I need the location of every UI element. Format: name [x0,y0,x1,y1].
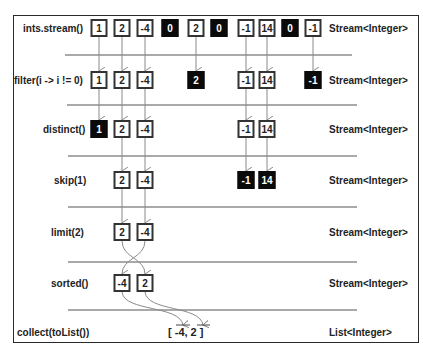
dropped-element-box: 14 [259,171,276,189]
operation-label-collect: collect(toList()) [17,327,89,338]
collected-list-result: [ -4, 2 ] [168,326,203,338]
operation-label-sorted: sorted() [51,278,88,289]
element-box: -4 [137,71,154,89]
element-box: 1 [91,19,108,37]
dropped-element-box: -1 [305,71,322,89]
dropped-element-box: 2 [188,71,205,89]
stage-separators [65,55,357,310]
operation-label-limit: limit(2) [51,227,84,238]
element-box: 2 [114,223,131,241]
operation-label-filter: filter(i -> i != 0) [14,75,83,86]
element-box: -1 [238,71,255,89]
type-label-stream: Stream<Integer> [329,23,408,34]
operation-label-distinct: distinct() [43,124,85,135]
element-box: 2 [137,274,154,292]
type-label-collect: List<Integer> [329,327,392,338]
type-label-distinct: Stream<Integer> [329,124,408,135]
dropped-element-box: 1 [91,120,108,138]
operation-label-stream: ints.stream() [23,23,83,34]
element-box: -1 [305,19,322,37]
dropped-element-box: 0 [211,19,228,37]
element-box: -1 [238,120,255,138]
dropped-element-box: 0 [282,19,299,37]
type-label-limit: Stream<Integer> [329,227,408,238]
element-box: 14 [259,71,276,89]
element-box: 2 [114,171,131,189]
type-label-skip: Stream<Integer> [329,175,408,186]
dropped-element-box: -1 [238,171,255,189]
element-box: -4 [114,274,131,292]
type-label-filter: Stream<Integer> [329,75,408,86]
element-box: -1 [238,19,255,37]
element-box: 2 [114,19,131,37]
element-box: 2 [114,120,131,138]
element-box: 2 [188,19,205,37]
element-box: 1 [91,71,108,89]
element-box: -4 [137,120,154,138]
element-box: -4 [137,223,154,241]
element-box: 14 [259,19,276,37]
type-label-sorted: Stream<Integer> [329,278,408,289]
element-box: -4 [137,19,154,37]
element-box: 2 [114,71,131,89]
dropped-element-box: 0 [162,19,179,37]
operation-label-skip: skip(1) [54,175,86,186]
element-box: 14 [259,120,276,138]
element-box: -4 [137,171,154,189]
